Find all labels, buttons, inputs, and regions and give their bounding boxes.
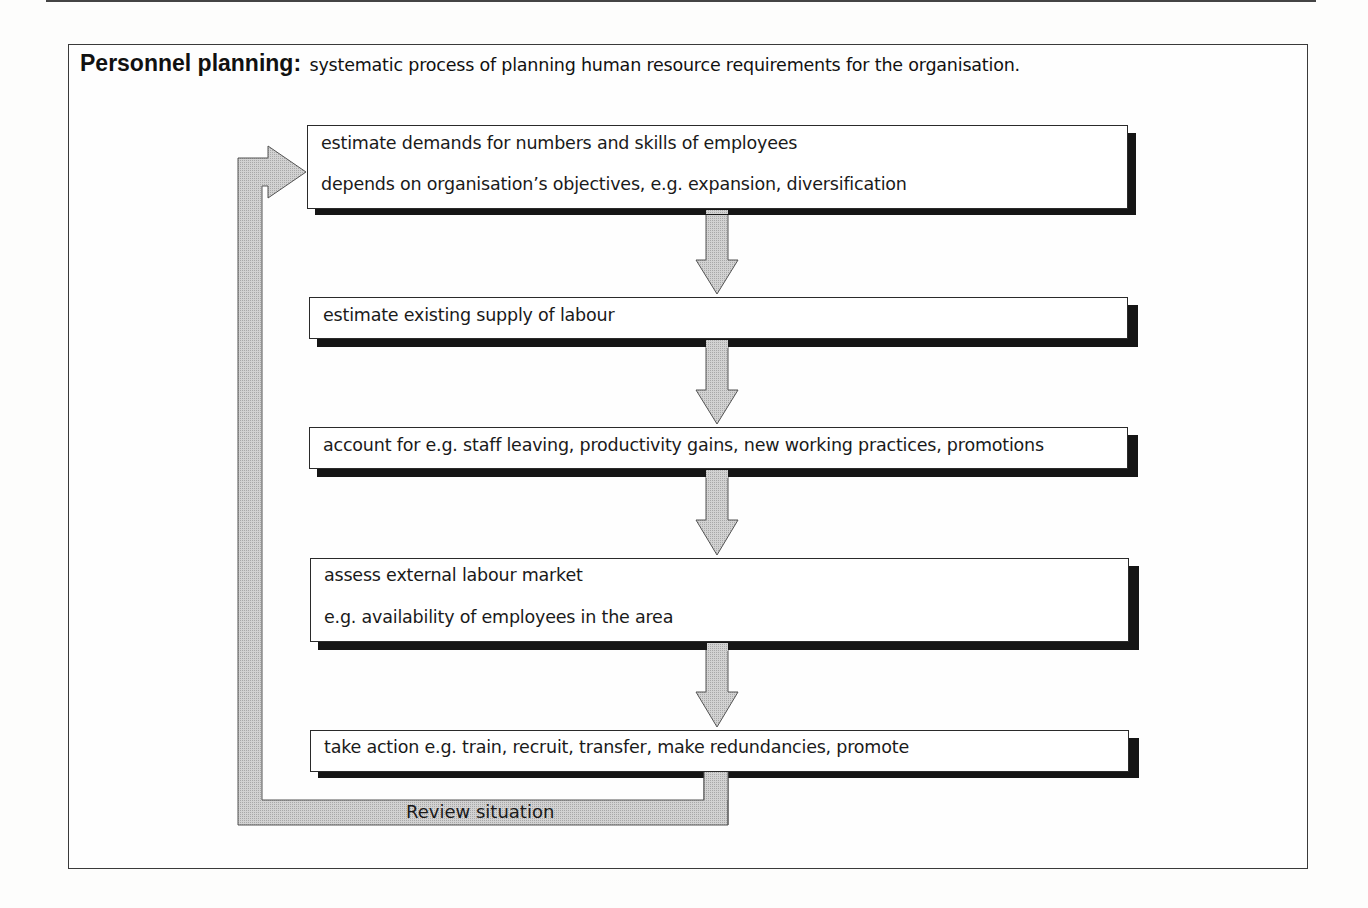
review-situation-label: Review situation xyxy=(406,801,554,822)
loop-overlay xyxy=(0,0,1368,908)
